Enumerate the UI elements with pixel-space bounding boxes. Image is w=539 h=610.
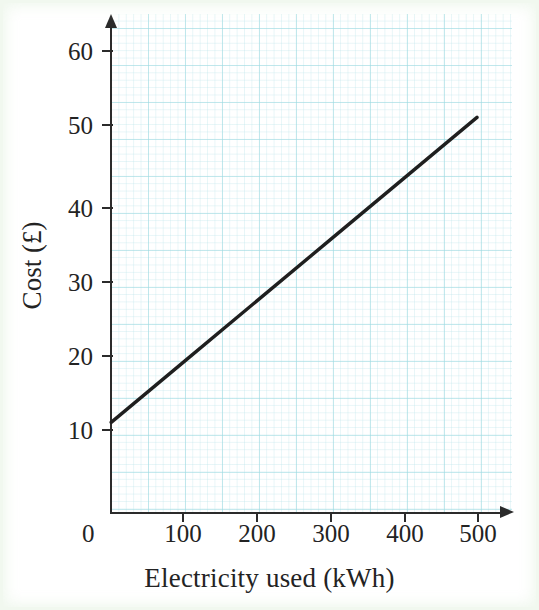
x-axis-title: Electricity used (kWh) [0,563,539,594]
chart-page: 60 50 40 30 20 10 0 100 200 300 [0,0,539,610]
plot-area: 60 50 40 30 20 10 0 100 200 300 [0,0,539,610]
y-axis-title: Cost (£) [17,186,48,346]
series-cost-line [0,0,539,610]
